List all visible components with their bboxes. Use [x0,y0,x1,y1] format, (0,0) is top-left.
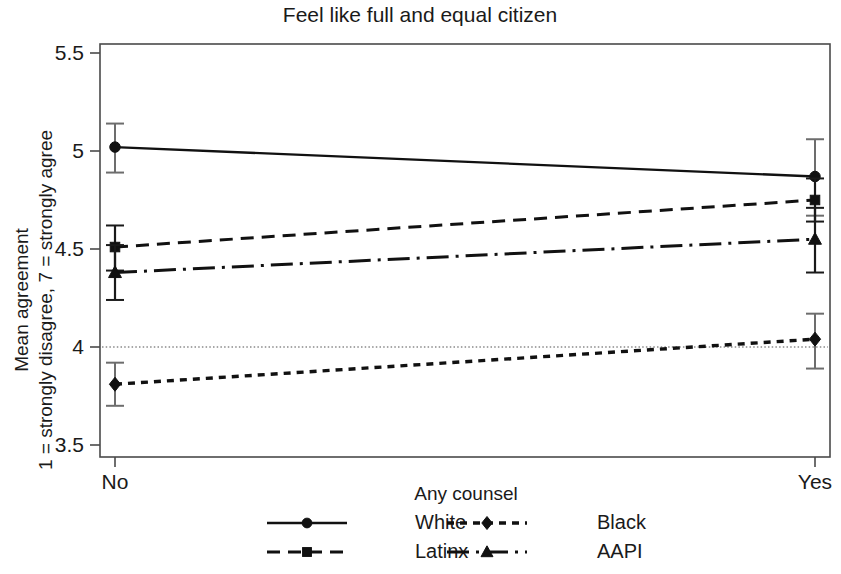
legend-item-aapi[interactable]: AAPI [447,540,643,562]
series-group [106,124,824,406]
legend-label: AAPI [597,540,643,562]
marker-square [303,548,312,557]
series-line [115,339,815,384]
y-tick-label: 5.5 [55,41,84,64]
x-tick-label: No [102,470,129,493]
chart-legend: WhiteBlackLatinxAAPI [267,511,647,562]
y-axis-title-line1: Mean agreement [11,227,32,371]
x-tick-label: Yes [798,470,832,493]
series-aapi [106,208,824,300]
marker-diamond [809,332,820,346]
marker-circle [302,518,312,528]
marker-circle [110,142,121,153]
marker-triangle [809,233,822,245]
chart-container: Feel like full and equal citizen Mean ag… [0,0,841,574]
series-black [106,314,824,406]
series-latinx [106,178,824,270]
y-tick-label: 5 [72,139,84,162]
plot-frame [100,44,830,457]
legend-item-latinx[interactable]: Latinx [267,540,468,562]
mean-agreement-line-chart: Feel like full and equal citizen Mean ag… [0,0,841,574]
legend-item-black[interactable]: Black [447,511,647,533]
series-line [115,239,815,272]
y-tick-label: 4 [72,335,84,358]
series-line [115,147,815,176]
chart-title: Feel like full and equal citizen [283,3,557,26]
y-tick-label: 3.5 [55,433,84,456]
series-white [106,124,824,216]
legend-label: White [415,511,466,533]
y-axis-title-line2: 1 = strongly disagree, 7 = strongly agre… [35,130,56,470]
marker-square [810,195,820,205]
legend-label: Black [597,511,647,533]
marker-diamond [109,377,120,391]
x-axis-title: Any counsel [414,483,518,504]
series-line [115,200,815,247]
y-tick-label: 4.5 [55,237,84,260]
legend-item-white[interactable]: White [267,511,466,533]
marker-diamond [482,517,492,530]
y-axis: 5.554.543.5 [55,41,100,456]
